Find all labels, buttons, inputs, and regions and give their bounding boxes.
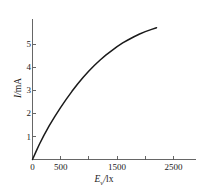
x-tick-label: 1500: [108, 163, 126, 172]
tick-marks: [33, 44, 174, 159]
y-axis-unit: mA: [13, 78, 23, 92]
y-tick-label: 5: [23, 40, 31, 49]
y-tick-label: 1: [23, 132, 31, 141]
series-photocurrent: [33, 28, 157, 160]
data-curve: [33, 28, 157, 160]
axes: [33, 19, 197, 160]
y-axis-slash: /: [13, 92, 23, 95]
y-axis-title: I/mA: [14, 78, 24, 98]
photocurrent-illuminance-chart: 050015002500 12345 Ev/lx I/mA: [0, 0, 205, 196]
y-axis-symbol: I: [13, 95, 23, 98]
x-axis-title: Ev/lx: [95, 175, 114, 187]
y-tick-label: 4: [23, 63, 31, 72]
y-tick-label: 3: [23, 86, 31, 95]
x-tick-label: 2500: [164, 163, 182, 172]
y-tick-label: 2: [23, 109, 31, 118]
x-tick-label: 500: [54, 163, 68, 172]
x-axis-unit: lx: [106, 174, 113, 184]
x-tick-label: 0: [30, 163, 35, 172]
